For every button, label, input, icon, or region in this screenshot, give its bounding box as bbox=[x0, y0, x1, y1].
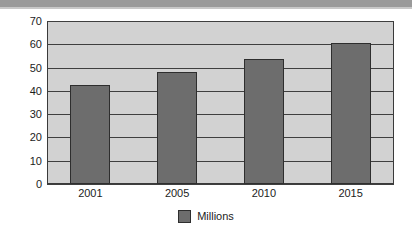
y-axis-tick-label: 30 bbox=[30, 109, 42, 120]
chart-screenshot: 010203040506070 2001200520102015 Million… bbox=[0, 0, 412, 234]
y-axis-tick-label: 40 bbox=[30, 85, 42, 96]
plot-area-wrapper: 010203040506070 bbox=[47, 21, 394, 184]
bar bbox=[331, 43, 371, 184]
x-axis-tick-labels: 2001200520102015 bbox=[47, 188, 394, 204]
bar bbox=[157, 72, 197, 184]
chart-legend: Millions bbox=[0, 210, 412, 223]
x-axis-tick-label: 2005 bbox=[165, 188, 189, 199]
top-gray-band bbox=[0, 0, 412, 7]
x-axis-tick-label: 2001 bbox=[78, 188, 102, 199]
bar bbox=[244, 59, 284, 184]
y-axis-tick-label: 0 bbox=[36, 179, 42, 190]
x-axis-tick-label: 2015 bbox=[338, 188, 362, 199]
bar-chart: 010203040506070 2001200520102015 Million… bbox=[0, 9, 412, 234]
gridline bbox=[47, 184, 394, 185]
legend-swatch-millions bbox=[178, 210, 191, 223]
bar-series-millions bbox=[47, 21, 394, 184]
bar bbox=[70, 85, 110, 184]
x-axis-tick-label: 2010 bbox=[252, 188, 276, 199]
y-axis-tick-label: 70 bbox=[30, 16, 42, 27]
legend-label-millions: Millions bbox=[197, 211, 234, 222]
y-axis-tick-label: 20 bbox=[30, 132, 42, 143]
y-axis-tick-label: 10 bbox=[30, 155, 42, 166]
y-axis-tick-label: 50 bbox=[30, 62, 42, 73]
y-axis-tick-label: 60 bbox=[30, 39, 42, 50]
